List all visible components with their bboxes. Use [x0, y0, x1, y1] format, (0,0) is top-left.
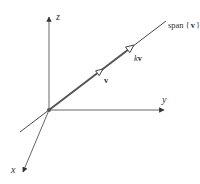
y-axis-label: y — [161, 94, 167, 105]
span-label-brace-open: { — [186, 20, 190, 30]
span-label-text: span — [168, 20, 184, 30]
x-axis-label: x — [10, 164, 16, 175]
z-axis-label: z — [55, 11, 60, 22]
v-label: v — [104, 75, 109, 85]
span-label-brace-close: } — [196, 20, 200, 30]
span-diagram: z y x span{v} v kv — [0, 0, 200, 184]
origin-point — [47, 108, 51, 112]
kv-label: kv — [134, 53, 143, 63]
span-label-vector: v — [191, 20, 196, 30]
span-label: span{v} — [168, 20, 200, 30]
kv-label-vector: v — [138, 53, 143, 63]
kv-vector-shaft — [49, 46, 133, 110]
